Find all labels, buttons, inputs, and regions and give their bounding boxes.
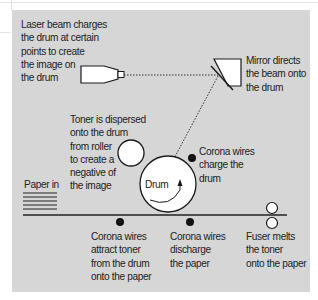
drum-label: Drum: [145, 178, 168, 191]
corona-discharge-label: Corona wires discharge the paper: [170, 230, 225, 270]
corona-charge-dot: [188, 154, 196, 162]
laser-label: Laser beam charges the drum at certain p…: [21, 18, 107, 84]
paper-in-label: Paper in: [24, 178, 59, 191]
corona-attract-dot: [116, 218, 124, 226]
toner-label: Toner is dispersed onto the drum from ro…: [70, 113, 146, 193]
fuser-roller-top: [267, 203, 278, 214]
corona-discharge-dot: [186, 218, 194, 226]
corona-attract-label: Corona wires attract toner from the drum…: [91, 230, 151, 283]
mirror-label: Mirror directs the beam onto the drum: [246, 54, 306, 94]
paper-stack-icon: [23, 193, 57, 209]
fuser-label: Fuser melts the toner onto the paper: [246, 230, 306, 270]
fuser-roller-bottom: [267, 218, 278, 229]
corona-charge-label: Corona wires charge the drum: [199, 145, 254, 185]
